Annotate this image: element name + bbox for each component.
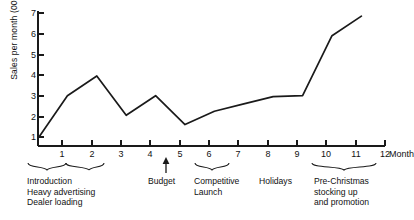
bracket-introduction-2 <box>66 163 104 170</box>
bracket-competitive-launch <box>195 163 229 170</box>
bracket-pre-christmas <box>312 163 376 170</box>
bracket-introduction <box>28 163 66 170</box>
budget-arrow-icon <box>163 157 170 173</box>
y-tick-marks <box>38 13 44 137</box>
x-tick-marks <box>62 140 385 146</box>
sales-data-line <box>39 16 361 137</box>
